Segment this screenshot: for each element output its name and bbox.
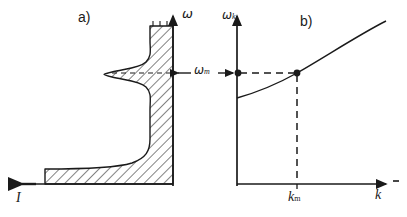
figure-vector-layer — [0, 0, 407, 217]
omega-m-label: ωm — [194, 64, 210, 76]
panel-b-axis-marker-dot — [235, 70, 242, 77]
panel-a-intensity-region — [45, 26, 173, 184]
panel-b-label: b) — [300, 14, 312, 28]
panel-a-top-cut-ticks — [153, 21, 167, 26]
omega-m-symbol: ω — [194, 63, 204, 77]
panel-b-curve-marker-dot — [294, 70, 301, 77]
panel-b-omega-k-label: ωk — [222, 9, 236, 21]
panel-a-hatched-profile — [45, 26, 173, 184]
omega-k-symbol: ω — [222, 8, 232, 22]
figure-canvas: a) ω I ωm ωk b) km k — [0, 0, 407, 217]
omega-k-subscript: k — [232, 12, 236, 21]
panel-a-omega-axis-label: ω — [182, 7, 193, 20]
panel-a-intensity-label: I — [16, 191, 21, 205]
omega-m-subscript: m — [204, 67, 210, 76]
panel-b-k-axis-label: k — [375, 188, 381, 202]
panel-a-label: a) — [78, 10, 90, 24]
km-subscript: m — [294, 194, 300, 203]
panel-b-km-label: km — [288, 190, 300, 204]
panel-b-dispersion-curve — [237, 21, 386, 98]
